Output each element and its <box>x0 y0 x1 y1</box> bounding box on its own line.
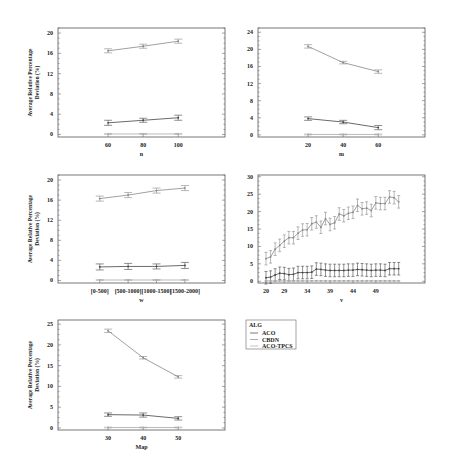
y-tick-label: 12 <box>47 71 53 77</box>
data-point <box>288 274 290 276</box>
data-point <box>311 223 313 225</box>
x-axis-label: Map <box>136 444 149 450</box>
data-point <box>177 133 179 135</box>
data-point <box>142 119 144 121</box>
data-point <box>384 280 386 282</box>
legend-label-aco: ACO <box>262 330 276 336</box>
data-point <box>361 208 363 210</box>
y-tick-label: 20 <box>47 342 53 348</box>
data-point <box>315 280 317 282</box>
data-point <box>398 268 400 270</box>
x-tick-label: 60 <box>375 142 381 148</box>
y-tick-label: 25 <box>247 191 253 197</box>
data-point <box>107 330 109 332</box>
data-point <box>302 272 304 274</box>
plot-frame <box>258 175 425 283</box>
data-point <box>325 269 327 271</box>
data-point <box>274 248 276 250</box>
x-tick-label: 39 <box>327 288 333 294</box>
legend-title: ALG <box>249 322 262 328</box>
data-point <box>288 280 290 282</box>
data-point <box>384 270 386 272</box>
x-tick-label: 80 <box>140 142 146 148</box>
data-point <box>343 270 345 272</box>
data-point <box>127 266 129 268</box>
data-point <box>352 280 354 282</box>
data-point <box>377 127 379 129</box>
y-tick-label: 5 <box>250 261 253 267</box>
data-point <box>293 280 295 282</box>
data-point <box>184 265 186 267</box>
data-point <box>361 280 363 282</box>
y-tick-label: 0 <box>250 132 253 138</box>
y-tick-label: 25 <box>47 321 53 327</box>
data-point <box>398 201 400 203</box>
data-point <box>283 273 285 275</box>
figure-canvas: 0481216206080100nAverage Relative Percen… <box>0 0 451 470</box>
y-tick-label: 16 <box>247 63 253 69</box>
data-point <box>375 269 377 271</box>
y-tick-label: 12 <box>47 217 53 223</box>
x-tick-label: 34 <box>304 288 310 294</box>
data-point <box>343 215 345 217</box>
x-axis-label: w <box>139 297 144 303</box>
data-point <box>366 207 368 209</box>
y-tick-label: 4 <box>50 257 53 263</box>
data-point <box>379 269 381 271</box>
data-point <box>156 266 158 268</box>
data-point <box>107 427 109 429</box>
data-point <box>338 213 340 215</box>
data-point <box>338 280 340 282</box>
data-point <box>142 45 144 47</box>
data-point <box>343 280 345 282</box>
chart-panel-w: 048121620[0-500][500-1000][1000-1500][15… <box>27 175 225 303</box>
chart-panel-v: 051015202530202934394449v <box>247 174 425 303</box>
data-point <box>302 280 304 282</box>
x-tick-label: 40 <box>140 435 146 441</box>
data-point <box>311 271 313 273</box>
data-point <box>107 122 109 124</box>
data-point <box>107 133 109 135</box>
data-point <box>99 198 101 200</box>
data-point <box>357 269 359 271</box>
y-tick-label: 24 <box>247 29 253 35</box>
data-point <box>279 280 281 282</box>
x-tick-label: 20 <box>305 142 311 148</box>
data-point <box>283 240 285 242</box>
data-point <box>357 204 359 206</box>
y-tick-label: 0 <box>50 425 53 431</box>
data-point <box>265 277 267 279</box>
y-tick-label: 20 <box>247 209 253 215</box>
data-point <box>366 269 368 271</box>
data-point <box>99 266 101 268</box>
data-point <box>352 211 354 213</box>
data-point <box>283 280 285 282</box>
data-point <box>297 232 299 234</box>
plot-frame <box>58 320 225 430</box>
data-point <box>293 273 295 275</box>
data-point <box>398 280 400 282</box>
y-tick-label: 10 <box>47 383 53 389</box>
data-point <box>329 280 331 282</box>
plot-frame <box>258 28 425 137</box>
data-point <box>177 117 179 119</box>
data-point <box>142 414 144 416</box>
y-tick-label: 8 <box>50 237 53 243</box>
data-point <box>184 187 186 189</box>
data-point <box>320 280 322 282</box>
y-tick-label: 15 <box>47 363 53 369</box>
data-point <box>302 229 304 231</box>
data-point <box>306 272 308 274</box>
data-point <box>306 280 308 282</box>
data-point <box>307 45 309 47</box>
y-tick-label: 8 <box>250 98 253 104</box>
data-point <box>389 280 391 282</box>
y-tick-label: 30 <box>247 174 253 180</box>
x-tick-label: [1500-2000] <box>170 288 200 295</box>
data-point <box>307 118 309 120</box>
data-point <box>329 270 331 272</box>
x-tick-label: 60 <box>105 142 111 148</box>
data-point <box>288 237 290 239</box>
data-point <box>347 212 349 214</box>
legend: ALG ACO CBDN ACO-TPCS <box>246 320 296 349</box>
